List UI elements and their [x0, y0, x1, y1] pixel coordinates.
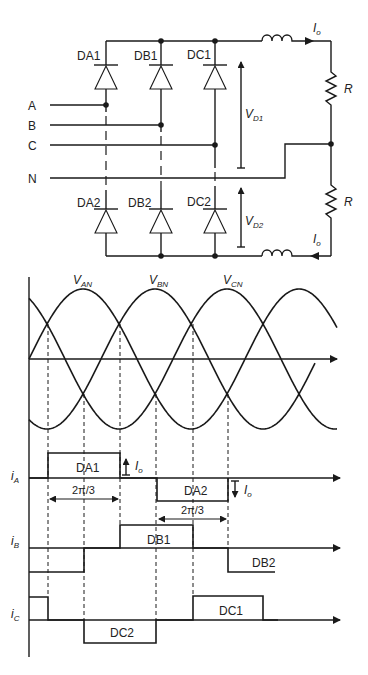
diode-label: DA2 [77, 196, 101, 210]
input-label-a: A [28, 99, 36, 113]
ia-label: iA [11, 469, 19, 485]
diode-db2: DB2 [128, 190, 173, 256]
diode-da2: DA2 [77, 190, 118, 256]
vbn-label: VBN [149, 273, 168, 289]
ic-label: iC [11, 607, 20, 623]
diode-label: DA1 [77, 49, 101, 63]
pulse-label-da2: DA2 [184, 484, 208, 498]
rectifier-circuit: Io R R Io DA1 DB1 [28, 21, 353, 260]
input-label-n: N [28, 172, 37, 186]
inductor-bottom-icon [262, 250, 294, 256]
diode-dc1: DC1 [187, 41, 227, 168]
input-label-c: C [28, 139, 37, 153]
ib-label: iB [11, 534, 20, 550]
io-label-down: Io [244, 483, 252, 499]
io-label-top: Io [313, 21, 321, 37]
diode-label: DC1 [187, 48, 211, 62]
current-arrow-icon [305, 37, 314, 45]
resistor-label-bottom: R [344, 195, 353, 209]
three-phase-rectifier-figure: Io R R Io DA1 DB1 [0, 0, 368, 675]
diode-da1: DA1 [77, 41, 118, 112]
current-arrow-icon [310, 252, 319, 260]
pulse-label-db1: DB1 [147, 533, 171, 547]
interval-label-1: 2π/3 [72, 484, 95, 496]
node-dot [158, 122, 164, 128]
diode-db1: DB1 [134, 41, 173, 132]
van-label: VAN [73, 273, 92, 289]
resistor-chain-icon [326, 41, 336, 256]
diode-dc2: DC2 [187, 186, 227, 256]
vcn-label: VCN [223, 273, 243, 289]
resistor-label-top: R [344, 82, 353, 96]
input-label-b: B [28, 119, 36, 133]
vd1-label: VD1 [245, 107, 263, 123]
interval-label-2: 2π/3 [181, 504, 204, 516]
diode-label: DB1 [134, 49, 158, 63]
inductor-top-icon [262, 35, 294, 41]
node-dot [103, 102, 109, 108]
neutral-wire [50, 144, 331, 178]
io-label-up: Io [135, 459, 143, 475]
node-dot [212, 142, 218, 148]
diode-label: DB2 [128, 196, 152, 210]
diode-label: DC2 [187, 195, 211, 209]
pulse-label-da1: DA1 [76, 461, 100, 475]
pulse-label-db2: DB2 [252, 556, 276, 570]
waveform-plot: VAN VBN VCN iA DA1 DA2 Io Io 2π/3 2π/3 i… [11, 273, 340, 657]
vd2-label: VD2 [245, 214, 264, 230]
pulse-label-dc1: DC1 [219, 604, 243, 618]
pulse-label-dc2: DC2 [110, 626, 134, 640]
io-label-bottom: Io [313, 232, 321, 248]
